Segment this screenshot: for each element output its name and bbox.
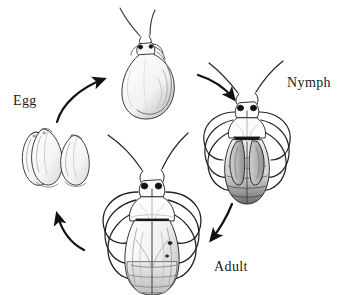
illustration-first-instar <box>120 8 174 119</box>
illustration-egg <box>22 128 89 187</box>
stage-label-egg: Egg <box>13 93 37 109</box>
diagram-canvas <box>0 0 351 295</box>
stage-label-adult: Adult <box>214 259 248 275</box>
arrow-first-instar-to-nymph <box>198 75 234 99</box>
stage-label-nymph: Nymph <box>287 75 331 91</box>
life-cycle-diagram: Egg Nymph Adult <box>0 0 351 295</box>
arrow-adult-to-egg <box>57 214 84 250</box>
arrow-nymph-to-adult <box>211 204 232 240</box>
arrow-egg-to-first-instar <box>57 79 104 122</box>
illustration-adult <box>103 133 201 295</box>
